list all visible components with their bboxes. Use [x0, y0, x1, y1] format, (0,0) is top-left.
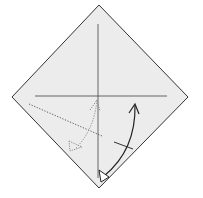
origami-diagram — [0, 0, 203, 198]
paper-square — [12, 5, 188, 188]
